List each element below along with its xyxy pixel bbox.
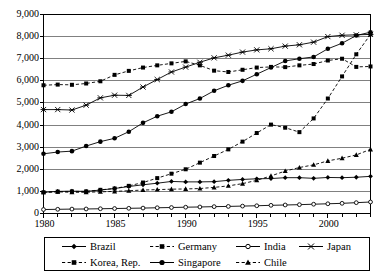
series-marker <box>268 173 273 178</box>
series-marker <box>326 97 330 101</box>
legend-item-brazil[interactable]: Brazil <box>61 238 116 255</box>
y-axis-tick-label: 2,000 <box>0 164 39 174</box>
series-marker <box>226 83 231 88</box>
series-marker <box>41 152 46 157</box>
series-marker <box>241 204 245 208</box>
series-marker <box>212 179 217 184</box>
series-marker <box>183 179 188 184</box>
series-marker <box>240 49 246 54</box>
series-marker <box>198 205 202 209</box>
series-marker <box>198 161 202 165</box>
series-marker <box>283 59 288 64</box>
series-marker <box>340 175 345 180</box>
series-marker <box>70 149 75 154</box>
series-marker <box>127 206 131 210</box>
series-marker <box>84 81 88 85</box>
series-marker <box>312 116 316 120</box>
series-marker <box>112 93 118 98</box>
series-marker <box>42 83 46 87</box>
series-marker <box>269 203 273 207</box>
x-axis-tick-label: 1995 <box>245 219 271 229</box>
series-marker <box>311 162 316 167</box>
series-marker <box>212 154 216 158</box>
series-marker <box>226 147 230 151</box>
plot-canvas <box>0 0 379 232</box>
legend-label: Chile <box>264 257 287 268</box>
series-marker <box>69 107 75 112</box>
series-germany <box>42 57 373 88</box>
x-axis-tick-label: 1985 <box>103 219 129 229</box>
series-marker <box>197 179 202 184</box>
series-marker <box>354 33 359 38</box>
legend-marker-circle-filled-icon <box>149 257 175 268</box>
series-marker <box>312 62 316 66</box>
legend-item-singapore[interactable]: Singapore <box>149 254 221 271</box>
series-marker <box>155 63 159 67</box>
series-marker <box>297 175 302 180</box>
series-marker <box>155 176 159 180</box>
series-marker <box>184 59 188 63</box>
series-marker <box>226 205 230 209</box>
series-marker <box>354 65 358 69</box>
series-marker <box>311 176 316 181</box>
x-axis-tick-label: 2000 <box>316 219 342 229</box>
series-marker <box>326 202 330 206</box>
series-marker <box>127 69 131 73</box>
series-marker <box>141 121 146 126</box>
series-marker <box>354 201 358 205</box>
series-marker <box>283 65 287 69</box>
series-marker <box>98 207 102 211</box>
series-marker <box>97 95 103 100</box>
series-marker <box>297 130 301 134</box>
series-marker <box>127 129 132 134</box>
legend-label: Japan <box>327 241 351 252</box>
legend-marker-circle-open-icon <box>235 241 261 252</box>
y-axis-tick-label: 1,000 <box>0 186 39 196</box>
y-axis-tick-label: 5,000 <box>0 97 39 107</box>
series-marker <box>141 206 145 210</box>
legend-item-korea-rep[interactable]: Korea, Rep. <box>61 254 140 271</box>
chart-screenshot: 01,0002,0003,0004,0005,0006,0007,0008,00… <box>0 0 379 276</box>
series-korea-rep <box>42 32 373 194</box>
series-marker <box>198 96 203 101</box>
series-marker <box>282 44 288 49</box>
series-marker <box>226 183 231 188</box>
series-marker <box>369 200 373 204</box>
series-marker <box>241 140 245 144</box>
y-axis-tick-label: 0 <box>0 208 39 218</box>
legend-item-germany[interactable]: Germany <box>149 238 217 255</box>
legend-label: Korea, Rep. <box>90 257 140 268</box>
series-marker <box>311 40 317 45</box>
series-marker <box>84 144 89 149</box>
series-singapore <box>41 30 373 156</box>
series-marker <box>326 58 330 62</box>
series-marker <box>170 206 174 210</box>
series-marker <box>184 167 188 171</box>
series-marker <box>225 53 231 58</box>
series-marker <box>183 65 189 70</box>
series-marker <box>283 175 288 180</box>
y-axis-tick-label: 9,000 <box>0 9 39 19</box>
series-marker <box>70 207 74 211</box>
series-marker <box>211 55 217 60</box>
series-marker <box>112 136 117 141</box>
series-marker <box>255 204 259 208</box>
x-axis-tick-label: 1980 <box>32 219 58 229</box>
legend-item-japan[interactable]: Japan <box>298 238 351 255</box>
legend-marker-square-icon <box>149 241 175 252</box>
series-marker <box>255 66 259 70</box>
legend-item-india[interactable]: India <box>235 238 286 255</box>
legend-label: Singapore <box>178 257 221 268</box>
series-marker <box>241 68 245 72</box>
series-marker <box>325 34 331 39</box>
series-marker <box>369 64 373 68</box>
series-marker <box>56 207 60 211</box>
series-marker <box>254 72 259 77</box>
gridlines <box>44 15 371 192</box>
legend-item-chile[interactable]: Chile <box>235 254 287 271</box>
series-marker <box>55 150 60 155</box>
series-marker <box>325 158 330 163</box>
series-marker <box>113 73 117 77</box>
legend-marker-square-icon <box>61 257 87 268</box>
series-marker <box>326 46 331 51</box>
